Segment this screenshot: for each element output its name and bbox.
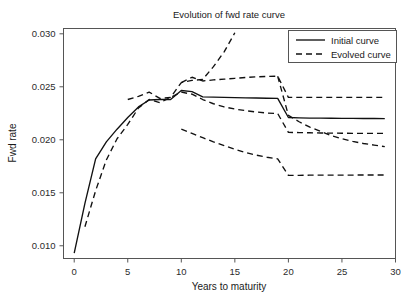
chart-container: Evolution of fwd rate curve 051015202530… <box>0 0 414 302</box>
chart-legend: Initial curve Evolved curve <box>289 31 397 63</box>
x-tick-label: 5 <box>125 266 130 277</box>
x-tick-label: 25 <box>337 266 348 277</box>
y-tick-label: 0.025 <box>32 81 56 92</box>
chart-title: Evolution of fwd rate curve <box>173 9 285 20</box>
x-tick-label: 20 <box>283 266 294 277</box>
y-tick-label: 0.030 <box>32 28 56 39</box>
x-axis-title: Years to maturity <box>192 281 267 292</box>
x-tick-label: 15 <box>230 266 241 277</box>
legend-label-initial-curve: Initial curve <box>331 35 379 46</box>
y-axis-title: Fwd rate <box>7 123 18 162</box>
y-tick-label: 0.020 <box>32 134 56 145</box>
x-tick-label: 30 <box>390 266 401 277</box>
x-tick-label: 10 <box>176 266 187 277</box>
y-tick-label: 0.015 <box>32 187 56 198</box>
y-tick-label: 0.010 <box>32 240 56 251</box>
x-tick-label: 0 <box>72 266 77 277</box>
legend-label-evolved-curve: Evolved curve <box>331 49 391 60</box>
fwd-rate-line-chart: Evolution of fwd rate curve 051015202530… <box>0 0 414 302</box>
